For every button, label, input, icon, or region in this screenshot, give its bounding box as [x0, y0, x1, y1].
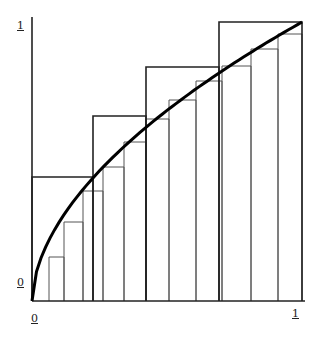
inner-rectangle: [146, 119, 169, 301]
function-curve: [32, 22, 302, 301]
inner-rectangle: [251, 49, 278, 301]
inner-rectangles: [49, 34, 302, 301]
x-axis-label-0: 0: [31, 312, 38, 325]
x-axis-label-1: 1: [292, 307, 299, 320]
inner-rectangle: [222, 66, 251, 301]
outer-rectangle: [32, 177, 93, 301]
inner-rectangle: [196, 81, 222, 301]
inner-rectangle: [278, 34, 302, 301]
inner-rectangle: [49, 257, 64, 301]
inner-rectangle: [103, 167, 124, 301]
inner-rectangle: [169, 100, 196, 301]
y-axis-label-0: 0: [17, 276, 24, 289]
y-axis-label-1: 1: [17, 19, 24, 32]
riemann-diagram: [0, 0, 319, 339]
outer-rectangle: [146, 67, 219, 301]
inner-rectangle: [124, 142, 146, 301]
outer-rectangles: [32, 22, 302, 301]
inner-rectangle: [64, 222, 83, 301]
outer-rectangle: [93, 116, 146, 301]
